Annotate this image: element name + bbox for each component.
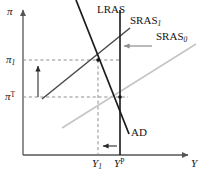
x-tick-Y-P-sup: P [120, 157, 124, 166]
x-axis-label: Y [191, 158, 197, 169]
x-tick-label-Y-P: YP [114, 158, 124, 169]
y-axis-label: π [7, 6, 13, 17]
curve-sras-0 [62, 44, 196, 128]
x-tick-Y-1-sub: 1 [98, 162, 102, 171]
y-tick-pi-T-sup: T [11, 90, 16, 99]
curve-label-lras: LRAS [97, 4, 125, 15]
curve-label-sras-0: SRAS0 [156, 31, 187, 43]
equilibrium-point-short-run [96, 58, 100, 62]
equilibrium-point-long-run [118, 95, 122, 99]
diagram-canvas [0, 0, 205, 179]
y-tick-pi-1-sub: 1 [12, 58, 16, 67]
y-tick-label-pi-1: π1 [6, 54, 15, 66]
y-tick-label-pi-T: πT [5, 91, 15, 102]
x-tick-label-Y-1: Y1 [92, 158, 102, 170]
curve-sras-1 [42, 28, 130, 99]
curve-label-sras-0-base: SRAS [156, 30, 184, 42]
ad-as-diagram: π Y π1 πT Y1 YP LRAS AD SRAS1 SRAS0 [0, 0, 205, 179]
curve-label-sras-1: SRAS1 [130, 15, 161, 27]
curve-label-sras-1-sub: 1 [158, 19, 162, 28]
curve-label-sras-1-base: SRAS [130, 14, 158, 26]
curve-label-sras-0-sub: 0 [184, 35, 188, 44]
curve-label-ad: AD [131, 127, 147, 138]
